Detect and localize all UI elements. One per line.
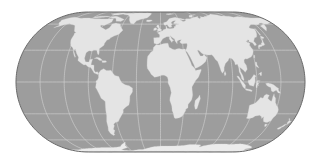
- hispaniola-landmass: [102, 61, 107, 63]
- world-map: [0, 0, 326, 164]
- map-canvas: [0, 0, 326, 164]
